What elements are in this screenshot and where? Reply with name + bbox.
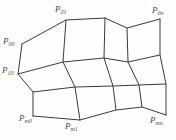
- label-p00: P00: [3, 37, 15, 46]
- net-row-1: [18, 55, 160, 74]
- net-col-0: [18, 44, 33, 116]
- net-col-2: [104, 18, 116, 110]
- net-col-3: [127, 28, 142, 107]
- net-column-lines: [18, 18, 166, 120]
- net-row-0: [22, 18, 160, 44]
- label-p0n: P0n: [152, 6, 164, 15]
- label-pm1: Pm1: [65, 122, 78, 131]
- label-pm0: Pm0: [19, 114, 32, 123]
- net-row-lines: [18, 18, 166, 120]
- net-col-1: [63, 20, 80, 120]
- net-col-4: [160, 19, 166, 115]
- control-net-figure: P00 P10 P01 P0n Pm0 Pm1 Pmn: [0, 0, 176, 140]
- net-row-2: [33, 84, 166, 92]
- label-pmn: Pmn: [150, 116, 163, 125]
- label-p10: P10: [2, 66, 14, 75]
- label-p01: P01: [55, 5, 67, 14]
- net-row-3: [33, 107, 166, 120]
